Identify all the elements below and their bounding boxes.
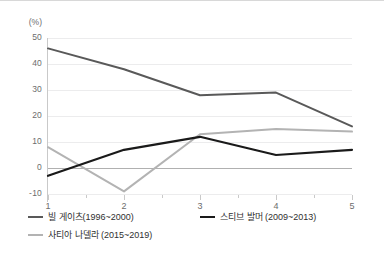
legend-item-gates[interactable]: 빌 게이츠(1996~2000) xyxy=(28,208,134,226)
series-line xyxy=(48,48,352,126)
legend-swatch-gates xyxy=(28,216,43,219)
legend-label-nadella: 사티아 나델라 (2015~2019) xyxy=(48,226,152,244)
series-line xyxy=(48,137,352,176)
legend-item-ballmer[interactable]: 스티브 발머 (2009~2013) xyxy=(200,208,316,226)
legend-swatch-ballmer xyxy=(200,216,215,219)
series-lines xyxy=(0,0,384,205)
legend-swatch-nadella xyxy=(28,234,43,237)
chart-legend: 빌 게이츠(1996~2000) 스티브 발머 (2009~2013) 사티아 … xyxy=(28,208,380,244)
line-chart: (%) 50403020100-10 12345 xyxy=(0,0,384,205)
legend-label-gates: 빌 게이츠(1996~2000) xyxy=(48,208,134,226)
legend-label-ballmer: 스티브 발머 (2009~2013) xyxy=(220,208,316,226)
legend-item-nadella[interactable]: 사티아 나델라 (2015~2019) xyxy=(28,226,152,244)
legend-row-1: 빌 게이츠(1996~2000) 스티브 발머 (2009~2013) xyxy=(28,208,380,226)
legend-row-2: 사티아 나델라 (2015~2019) xyxy=(28,226,380,244)
